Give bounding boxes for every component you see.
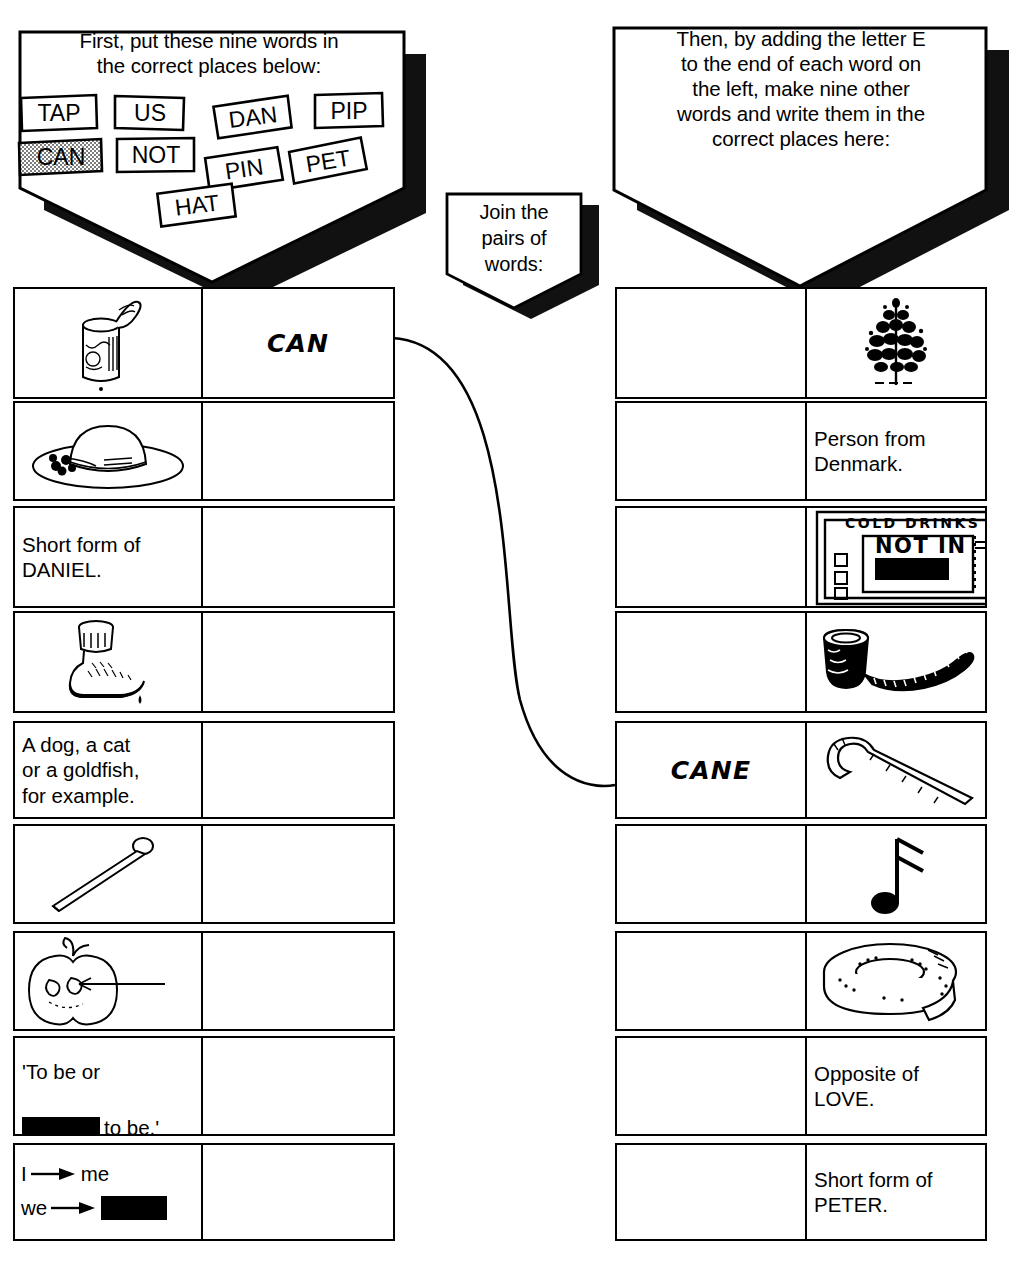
- table-row[interactable]: [615, 287, 987, 399]
- table-row[interactable]: [13, 931, 395, 1031]
- answer-cell[interactable]: [203, 723, 393, 817]
- table-row[interactable]: [13, 824, 395, 924]
- answer-cell[interactable]: [617, 933, 807, 1029]
- table-row[interactable]: COLD DRINKS NOT IN: [615, 506, 987, 608]
- clue-text: Short form of PETER.: [807, 1167, 933, 1218]
- clue-cell: 'To be or to be.': [15, 1038, 203, 1134]
- answer-cell[interactable]: [203, 508, 393, 606]
- table-row[interactable]: Short form of PETER.: [615, 1143, 987, 1241]
- answer-cell[interactable]: [617, 613, 807, 711]
- hose-coil-icon: [816, 938, 976, 1024]
- answer-cell[interactable]: [617, 508, 807, 606]
- vending-sign-top: COLD DRINKS: [845, 515, 980, 531]
- arrow-right-icon: [51, 1201, 97, 1215]
- table-row[interactable]: Opposite of LOVE.: [615, 1036, 987, 1136]
- smoking-pipe-icon: [814, 622, 979, 702]
- answer-cell[interactable]: [203, 1038, 393, 1134]
- pronoun-to-1: me: [81, 1164, 109, 1185]
- word-tile[interactable]: PIP: [312, 90, 386, 132]
- sun-hat-icon: [26, 408, 191, 494]
- word-tile-label: PIP: [312, 90, 386, 132]
- answer-cell[interactable]: CAN: [203, 289, 393, 397]
- clue-cell: Opposite of LOVE.: [807, 1038, 985, 1134]
- answer-cell[interactable]: [203, 403, 393, 499]
- table-row[interactable]: I me we: [13, 1143, 395, 1241]
- redacted-word: [22, 1117, 100, 1134]
- pronoun-from-2: we: [21, 1198, 47, 1219]
- table-row[interactable]: A dog, a cat or a goldfish, for example.: [13, 721, 395, 819]
- clue-cell: [807, 826, 985, 922]
- answer-cell[interactable]: CANE: [617, 723, 807, 817]
- word-tile-label: US: [112, 92, 188, 134]
- clue-cell: A dog, a cat or a goldfish, for example.: [15, 723, 203, 817]
- clue-cell: [807, 933, 985, 1029]
- answer-value: CANE: [617, 756, 805, 785]
- table-row[interactable]: 'To be or to be.': [13, 1036, 395, 1136]
- word-tile-label: TAP: [18, 92, 100, 134]
- word-tile[interactable]: US: [112, 92, 188, 134]
- answer-cell[interactable]: [203, 1145, 393, 1239]
- clue-cell: Person from Denmark.: [807, 403, 985, 499]
- table-row[interactable]: Person from Denmark.: [615, 401, 987, 501]
- apple-pip-icon: [15, 934, 200, 1028]
- clue-text: Person from Denmark.: [807, 426, 926, 477]
- clue-cell: [15, 613, 203, 711]
- arrow-right-icon: [31, 1167, 77, 1181]
- pine-tree-icon: [851, 291, 941, 395]
- table-row[interactable]: CAN: [13, 287, 395, 399]
- middle-instruction-text: Join the pairs of words:: [447, 199, 581, 277]
- answer-cell[interactable]: [203, 613, 393, 711]
- walking-cane-icon: [812, 732, 980, 808]
- quote-line-1: 'To be or: [22, 1060, 100, 1083]
- table-row[interactable]: CANE: [615, 721, 987, 819]
- answer-cell[interactable]: [203, 826, 393, 922]
- word-tile-used[interactable]: CAN: [16, 136, 106, 178]
- table-row[interactable]: [13, 611, 395, 713]
- clue-text: Opposite of LOVE.: [807, 1061, 919, 1112]
- clue-cell: [15, 933, 203, 1029]
- clue-cell: COLD DRINKS NOT IN: [807, 508, 985, 606]
- clue-cell: [807, 289, 985, 397]
- word-tile[interactable]: NOT: [114, 134, 198, 176]
- pronoun-arrows-clue: I me we: [15, 1164, 167, 1221]
- right-instruction-text: Then, by adding the letter E to the end …: [614, 26, 988, 151]
- word-tile[interactable]: TAP: [18, 92, 100, 134]
- clue-text: A dog, a cat or a goldfish, for example.: [15, 732, 139, 808]
- answer-cell[interactable]: [617, 403, 807, 499]
- water-tap-icon: [48, 615, 168, 709]
- table-row[interactable]: [615, 611, 987, 713]
- clue-cell: [15, 826, 203, 922]
- clue-cell: [807, 613, 985, 711]
- answer-value: CAN: [203, 329, 393, 358]
- left-instruction-text: First, put these nine words in the corre…: [14, 28, 404, 78]
- table-row[interactable]: [13, 401, 395, 501]
- clue-cell: [15, 403, 203, 499]
- redacted-word: [101, 1196, 167, 1220]
- answer-cell[interactable]: [617, 1145, 807, 1239]
- clue-cell: Short form of PETER.: [807, 1145, 985, 1239]
- quote-line-2: to be.': [104, 1116, 159, 1134]
- answer-cell[interactable]: [203, 933, 393, 1029]
- answer-cell[interactable]: [617, 1038, 807, 1134]
- pin-nail-icon: [33, 832, 183, 916]
- clue-text: 'To be or to be.': [15, 1038, 159, 1134]
- clue-cell: Short form of DANIEL.: [15, 508, 203, 606]
- table-row[interactable]: Short form of DANIEL.: [13, 506, 395, 608]
- clue-cell: I me we: [15, 1145, 203, 1239]
- clue-cell: [15, 289, 203, 397]
- clue-cell: [807, 723, 985, 817]
- word-tile-label: CAN: [16, 136, 106, 178]
- clue-text: Short form of DANIEL.: [15, 532, 141, 583]
- answer-cell[interactable]: [617, 826, 807, 922]
- vending-sign-mid: NOT IN: [875, 534, 966, 558]
- table-row[interactable]: [615, 931, 987, 1031]
- word-tile-label: NOT: [114, 134, 198, 176]
- pronoun-from-1: I: [21, 1164, 27, 1185]
- tin-can-icon: [53, 295, 163, 391]
- music-note-icon: [861, 831, 931, 917]
- table-row[interactable]: [615, 824, 987, 924]
- answer-cell[interactable]: [617, 289, 807, 397]
